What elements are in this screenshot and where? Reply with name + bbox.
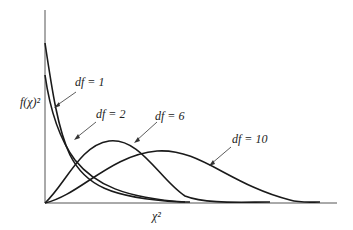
arrow-df10	[209, 147, 231, 166]
curve-df6	[45, 141, 270, 203]
y-axis-label: f(χ)²	[20, 95, 41, 109]
label-df2: df = 2	[96, 107, 125, 121]
label-df10: df = 10	[232, 132, 267, 146]
curve-df2	[45, 75, 185, 202]
chi-square-chart: f(χ)² χ² df = 1 df = 2 df = 6 df = 10	[0, 0, 353, 230]
arrow-df2	[74, 122, 96, 140]
arrow-df6	[134, 122, 157, 143]
label-df6: df = 6	[155, 109, 184, 123]
x-axis-label: χ²	[151, 209, 161, 223]
label-df1: df = 1	[75, 75, 104, 89]
arrow-df1	[54, 92, 76, 108]
